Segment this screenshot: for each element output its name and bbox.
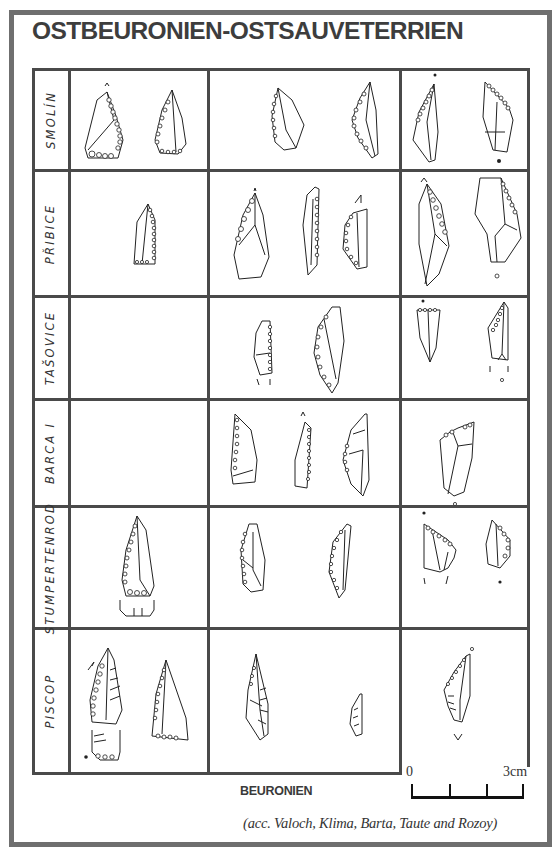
artifact-drawing <box>405 174 525 294</box>
artifact-drawing <box>78 640 203 765</box>
grid-line-col <box>207 68 210 775</box>
figure-title: OSTBEURONIEN-OSTSAUVETERRIEN <box>32 17 463 45</box>
scale-tick <box>449 784 451 797</box>
artifact-drawing <box>405 72 525 167</box>
row-label-barca: BARCA I <box>32 400 69 506</box>
scale-bar-line <box>411 796 524 799</box>
row-label-tasovice: TAŠOVICE <box>32 297 69 399</box>
row-label-smolin: SMOLÍN <box>32 70 69 170</box>
scale-end-label: 3cm <box>503 764 527 780</box>
row-label-piscop: PISCOP <box>32 629 69 773</box>
scale-tick <box>486 784 488 797</box>
scale-tick <box>522 784 524 798</box>
scale-start-label: 0 <box>406 764 413 780</box>
grid-line-row <box>32 169 529 172</box>
artifact-drawing <box>225 410 395 505</box>
artifact-drawing <box>410 298 520 393</box>
artifact-drawing <box>225 185 395 285</box>
grid-line-col <box>399 68 402 775</box>
artifact-drawing <box>238 650 378 750</box>
artifact-drawing <box>430 418 490 508</box>
column-label-beuronien: BEURONIEN <box>240 784 312 798</box>
artifact-drawing <box>125 200 165 270</box>
grid-line-top <box>32 68 529 71</box>
grid-line-row <box>32 627 529 630</box>
artifact-drawing <box>430 640 490 750</box>
grid-line-row <box>32 398 529 401</box>
source-citation: (acc. Valoch, Klima, Barta, Taute and Ro… <box>243 815 497 832</box>
grid-line-bottom <box>32 772 402 775</box>
artifact-drawing <box>80 80 200 165</box>
scale-tick <box>411 784 413 798</box>
row-label-stumpertenrod: STUMPERTENROD <box>32 507 69 628</box>
artifact-drawing <box>110 510 180 620</box>
artifact-drawing <box>235 520 375 605</box>
row-label-pribice: PŘIBICE <box>32 171 69 296</box>
artifact-drawing <box>260 80 390 165</box>
grid-line-col <box>527 68 530 767</box>
artifact-drawing <box>248 305 358 395</box>
artifact-drawing <box>418 510 528 600</box>
